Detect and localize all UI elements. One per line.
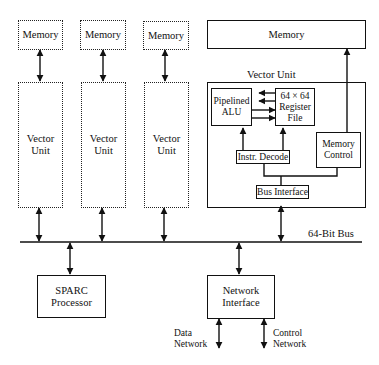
sparc-processor-box: SPARCProcessor [37, 275, 106, 318]
memory-control-box: MemoryControl [316, 132, 361, 168]
control-word-label: Control [322, 150, 355, 161]
data-network-label: Data Network [174, 328, 207, 350]
vector-unit-box-1: VectorUnit [18, 82, 63, 208]
register-label: Register [279, 102, 311, 113]
control-label: Control [273, 328, 306, 339]
register-file-box: 64 × 64RegisterFile [275, 88, 315, 126]
network-label: Network [222, 285, 259, 297]
network-interface-box: NetworkInterface [207, 275, 275, 319]
bus-label: 64-Bit Bus [308, 228, 354, 240]
unit-label: Unit [27, 145, 54, 157]
unit-label: Unit [153, 145, 180, 157]
memory-box-2: Memory [80, 20, 126, 50]
unit-label: Unit [90, 145, 117, 157]
processor-label: Processor [51, 297, 92, 309]
vector-label: Vector [153, 133, 180, 145]
pipelined-alu-box: PipelinedALU [211, 88, 252, 126]
memory-word-label: Memory [322, 139, 355, 150]
pipelined-label: Pipelined [214, 96, 250, 107]
control-network-label: Control Network [273, 328, 306, 350]
alu-label: ALU [214, 107, 250, 118]
control-network-word: Network [273, 339, 306, 350]
memory-label: Memory [148, 30, 184, 42]
vector-unit-box-2: VectorUnit [81, 82, 126, 208]
memory-box-1: Memory [18, 20, 63, 50]
memory-label: Memory [22, 29, 58, 41]
bus-interface-label: Bus Interface [257, 187, 308, 198]
file-label: File [279, 113, 311, 124]
memory-label: Memory [85, 29, 121, 41]
bus-interface-box: Bus Interface [256, 185, 309, 199]
sparc-label: SPARC [51, 285, 92, 297]
instr-decode-box: Instr. Decode [236, 150, 290, 164]
vector-label: Vector [90, 133, 117, 145]
vector-label: Vector [27, 133, 54, 145]
memory-label: Memory [268, 29, 304, 41]
interface-label: Interface [222, 297, 259, 309]
main-memory-box: Memory [207, 20, 366, 49]
vector-unit-box-3: VectorUnit [144, 82, 189, 208]
reg-size-label: 64 × 64 [279, 91, 311, 102]
vector-unit-title: Vector Unit [247, 69, 296, 81]
data-network-word: Network [174, 339, 207, 350]
instr-decode-label: Instr. Decode [238, 152, 289, 163]
memory-box-3: Memory [143, 21, 189, 50]
data-label: Data [174, 328, 207, 339]
